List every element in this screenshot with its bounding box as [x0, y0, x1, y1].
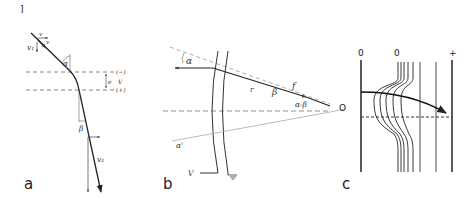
panel-a-label: a	[24, 175, 33, 193]
panel-c-label: c	[342, 175, 350, 193]
electrode-right	[223, 51, 229, 173]
incoming-direction-arrow	[38, 40, 46, 48]
panel-c: 0 0 + c	[342, 48, 457, 193]
electron-trajectory	[31, 33, 101, 192]
beta-label-b: β	[271, 87, 277, 97]
alpha-prime-label: α'	[176, 141, 183, 150]
reference-dashed-line	[170, 47, 330, 104]
panel-b: V α r β f α-β α' O b	[163, 47, 346, 193]
vn-label: v	[46, 38, 50, 45]
v1-label: v₁	[27, 43, 34, 52]
gap-label: e	[108, 78, 112, 85]
focal-label: f	[291, 81, 297, 91]
radius-label: r	[250, 85, 254, 94]
panel-a: v₁ v v α β v₂ e V (−) (+) a	[24, 30, 126, 193]
panel-b-label: b	[163, 175, 173, 193]
voltage-label: V	[188, 169, 195, 178]
lower-sign-label: (+)	[116, 86, 126, 93]
beta-label: β	[78, 124, 84, 133]
upper-sign-label: (−)	[116, 68, 126, 75]
alpha-arc-b	[182, 53, 184, 63]
vt-label: v	[39, 30, 43, 37]
alpha-label-b: α	[186, 56, 192, 66]
lower-ray	[172, 112, 330, 141]
electrode-mark-middle: 0	[394, 48, 400, 58]
alpha-label: α	[63, 59, 68, 68]
electron-optics-figure: ] v₁ v v α β v₂ e V (−) (+) a	[0, 0, 474, 199]
bracket-mark: ]	[20, 4, 24, 14]
alpha-minus-beta-label: α-β	[295, 100, 308, 109]
v2-label: v₂	[97, 155, 104, 164]
potential-label: V	[118, 78, 123, 85]
electrode-mark-left: 0	[358, 48, 364, 58]
electrode-mark-right: +	[449, 48, 457, 58]
focus-point-label: O	[339, 103, 346, 113]
